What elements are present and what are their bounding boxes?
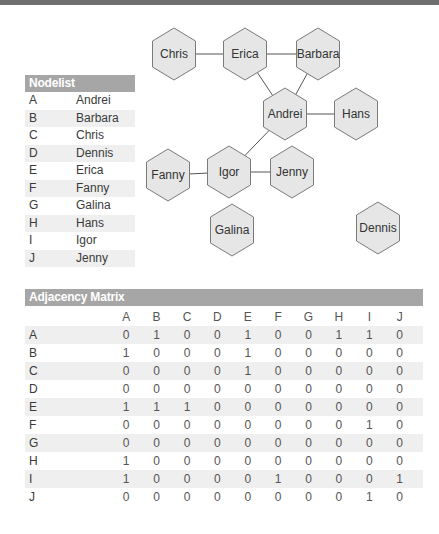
- matrix-row: D0000000000: [25, 380, 423, 398]
- matrix-cell: 0: [385, 488, 415, 506]
- matrix-column-header: F: [263, 308, 293, 326]
- matrix-cell: 0: [293, 416, 323, 434]
- matrix-column-header: D: [202, 308, 232, 326]
- matrix-cell: 0: [233, 434, 263, 452]
- matrix-cell: 1: [263, 470, 293, 488]
- matrix-cell: 0: [233, 380, 263, 398]
- node-name: Dennis: [76, 145, 135, 163]
- matrix-cell: 1: [233, 344, 263, 362]
- matrix-cell: 0: [293, 380, 323, 398]
- node-label: Barbara: [297, 47, 340, 61]
- node-key: H: [25, 215, 76, 233]
- node-key: G: [25, 197, 76, 215]
- matrix-row-label: I: [25, 470, 111, 488]
- matrix-cell: 0: [385, 326, 415, 344]
- matrix-column-header: B: [141, 308, 171, 326]
- matrix-cell: 0: [293, 326, 323, 344]
- matrix-cell: 0: [233, 452, 263, 470]
- matrix-cell: 0: [141, 344, 171, 362]
- matrix-cell: 0: [263, 398, 293, 416]
- matrix-row: G0000000000: [25, 434, 423, 452]
- matrix-cell: 1: [385, 470, 415, 488]
- matrix-cell: 0: [385, 380, 415, 398]
- node-key: E: [25, 162, 76, 180]
- matrix-cell: 0: [293, 488, 323, 506]
- matrix-cell: 0: [263, 326, 293, 344]
- matrix-cell: 1: [233, 326, 263, 344]
- matrix-cell: 0: [172, 434, 202, 452]
- matrix-row-label: G: [25, 434, 111, 452]
- node-chris: Chris: [153, 28, 196, 80]
- matrix-corner: [25, 308, 111, 326]
- matrix-cell: 0: [141, 488, 171, 506]
- matrix-row: E1110000000: [25, 398, 423, 416]
- matrix-cell: 1: [111, 470, 141, 488]
- matrix-cell: 0: [202, 380, 232, 398]
- node-key: C: [25, 127, 76, 145]
- matrix-cell: 0: [111, 380, 141, 398]
- node-name: Jenny: [76, 250, 135, 268]
- matrix-cell: 0: [293, 470, 323, 488]
- matrix-cell: 0: [172, 380, 202, 398]
- matrix-row-label: D: [25, 380, 111, 398]
- matrix-cell: 0: [324, 470, 354, 488]
- node-label: Erica: [231, 47, 259, 61]
- matrix-cell: 0: [202, 452, 232, 470]
- matrix-row-label: J: [25, 488, 111, 506]
- node-name: Chris: [76, 127, 135, 145]
- matrix-cell: 0: [141, 362, 171, 380]
- matrix-cell: 0: [111, 488, 141, 506]
- matrix-cell: 0: [141, 434, 171, 452]
- matrix-cell: 0: [354, 470, 384, 488]
- matrix-cell: 0: [263, 362, 293, 380]
- node-name: Barbara: [76, 110, 135, 128]
- matrix-column-header: H: [324, 308, 354, 326]
- matrix-cell: 0: [263, 488, 293, 506]
- node-key: F: [25, 180, 76, 198]
- matrix-row: B1000100000: [25, 344, 423, 362]
- matrix-cell: 1: [354, 416, 384, 434]
- node-erica: Erica: [224, 28, 267, 80]
- matrix-cell: 1: [141, 398, 171, 416]
- matrix-cell: 0: [172, 452, 202, 470]
- node-label: Andrei: [268, 107, 303, 121]
- matrix-cell: 0: [263, 434, 293, 452]
- matrix-column-header: C: [172, 308, 202, 326]
- matrix-cell: 0: [385, 434, 415, 452]
- matrix-cell: 1: [111, 452, 141, 470]
- matrix-cell: 0: [354, 344, 384, 362]
- node-label: Chris: [160, 47, 188, 61]
- matrix-cell: 1: [354, 488, 384, 506]
- matrix-cell: 0: [324, 398, 354, 416]
- matrix-cell: 0: [385, 416, 415, 434]
- node-galina: Galina: [211, 204, 254, 256]
- nodelist-row: DDennis: [25, 145, 135, 163]
- matrix-cell: 0: [111, 326, 141, 344]
- matrix-cell: 1: [354, 326, 384, 344]
- matrix-cell: 0: [172, 326, 202, 344]
- matrix-row-label: C: [25, 362, 111, 380]
- nodelist-rows: AAndreiBBarbaraCChrisDDennisEEricaFFanny…: [25, 92, 135, 267]
- matrix-column-header: J: [385, 308, 415, 326]
- matrix-cell: 0: [202, 470, 232, 488]
- matrix-cell: 0: [293, 344, 323, 362]
- node-key: J: [25, 250, 76, 268]
- matrix-row: J0000000010: [25, 488, 423, 506]
- nodelist-row: GGalina: [25, 197, 135, 215]
- nodelist-table: Nodelist AAndreiBBarbaraCChrisDDennisEEr…: [25, 75, 135, 267]
- matrix-cell: 0: [263, 452, 293, 470]
- matrix-cell: 0: [202, 434, 232, 452]
- matrix-cell: 0: [111, 434, 141, 452]
- matrix-cell: 0: [293, 362, 323, 380]
- matrix-cell: 0: [385, 398, 415, 416]
- nodelist-row: EErica: [25, 162, 135, 180]
- matrix-cell: 0: [385, 362, 415, 380]
- node-name: Andrei: [76, 92, 135, 110]
- matrix-cell: 0: [324, 380, 354, 398]
- matrix-cell: 0: [354, 434, 384, 452]
- matrix-row-label: F: [25, 416, 111, 434]
- matrix-cell: 0: [354, 398, 384, 416]
- matrix-row: C0000100000: [25, 362, 423, 380]
- node-name: Igor: [76, 232, 135, 250]
- matrix-cell: 0: [354, 452, 384, 470]
